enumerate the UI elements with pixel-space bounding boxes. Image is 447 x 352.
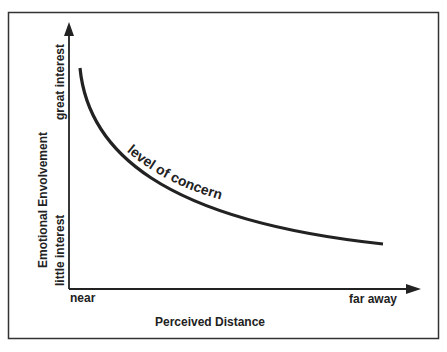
x-high-label: far away <box>349 292 397 306</box>
x-axis-arrow-icon <box>406 284 421 294</box>
level-of-concern-curve <box>80 68 383 244</box>
y-axis-arrow-icon <box>64 22 74 36</box>
y-high-label: great interest <box>53 44 67 120</box>
y-axis-title: Emotional Envolvement <box>36 132 50 268</box>
y-low-label: little interest <box>53 215 67 286</box>
x-low-label: near <box>70 291 96 305</box>
x-axis-title: Perceived Distance <box>155 315 265 329</box>
curve-label: level of concern <box>125 141 225 202</box>
diagram-canvas: level of concern Emotional Envolvement g… <box>0 0 447 352</box>
